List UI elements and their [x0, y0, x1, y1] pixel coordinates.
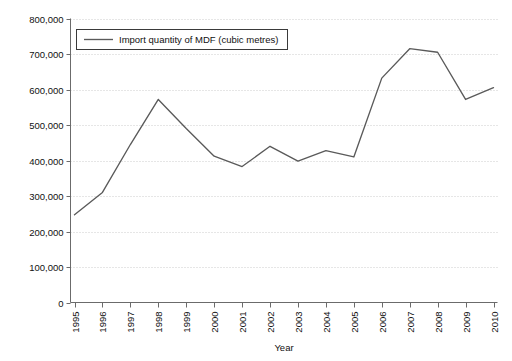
chart-container: 0100,000200,000300,000400,000500,000600,…: [0, 0, 512, 361]
x-tick-label: 2004: [321, 312, 332, 333]
x-tick-label: 2002: [265, 312, 276, 333]
x-tick-label: 2006: [377, 312, 388, 333]
y-tick-label: 100,000: [29, 262, 63, 273]
y-tick-label: 600,000: [29, 85, 63, 96]
x-tick-label: 1995: [70, 312, 81, 333]
x-tick-label: 1998: [153, 312, 164, 333]
x-tick-label: 2007: [405, 312, 416, 333]
x-axis-title: Year: [274, 342, 293, 353]
y-tick-label: 0: [58, 298, 63, 309]
x-tick-label: 2008: [433, 312, 444, 333]
y-tick-label: 200,000: [29, 227, 63, 238]
y-tick-label: 500,000: [29, 120, 63, 131]
x-tick-label: 2000: [209, 312, 220, 333]
x-tick-label: 2010: [489, 312, 500, 333]
y-tick-label: 400,000: [29, 156, 63, 167]
y-tick-label: 700,000: [29, 49, 63, 60]
x-tick-label: 2001: [237, 312, 248, 333]
y-tick-label: 300,000: [29, 191, 63, 202]
legend-label-import-quantity-of-mdf: Import quantity of MDF (cubic metres): [119, 34, 278, 45]
x-tick-label: 2003: [293, 312, 304, 333]
line-chart: 0100,000200,000300,000400,000500,000600,…: [0, 0, 512, 361]
x-tick-label: 1996: [97, 312, 108, 333]
x-tick-label: 1999: [181, 312, 192, 333]
x-tick-label: 2009: [461, 312, 472, 333]
x-tick-label: 2005: [349, 312, 360, 333]
x-tick-label: 1997: [125, 312, 136, 333]
legend: Import quantity of MDF (cubic metres): [77, 30, 288, 50]
y-tick-label: 800,000: [29, 14, 63, 25]
